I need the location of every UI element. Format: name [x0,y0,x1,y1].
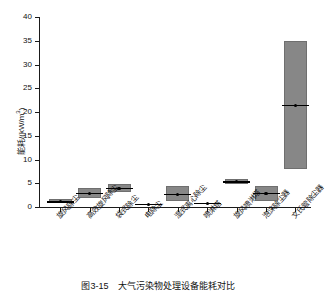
y-axis-tick [35,65,39,66]
y-axis-tick-label: 35 [12,37,32,45]
y-axis-tick-label: 25 [12,84,32,92]
y-axis-tick [35,17,39,18]
y-axis-tick-label: 15 [12,132,32,140]
box-plot-median-marker [206,202,209,205]
y-axis-tick [35,207,39,208]
y-axis-tick [35,112,39,113]
y-axis-tick [35,136,39,137]
x-axis-tick-label: 旋风喷淋塔 [233,189,262,220]
y-axis-tick-label: 30 [12,61,32,69]
y-axis-tick [35,88,39,89]
y-axis-tick-label: 40 [12,13,32,21]
y-axis-tick [35,41,39,42]
figure-caption: 图3-15 大气污染物处理设备能耗对比 [81,281,234,291]
y-axis-line [39,17,40,208]
y-axis-tick-label: 20 [12,108,32,116]
y-axis-tick [35,183,39,184]
y-axis-tick-label: 0 [12,203,32,211]
x-axis-tick-label: 文氏管除尘器 [291,184,325,221]
box-plot-median-marker [294,104,297,107]
y-axis-tick-label: 5 [12,179,32,187]
y-axis-tick-label: 10 [12,156,32,164]
y-axis-tick [35,160,39,161]
